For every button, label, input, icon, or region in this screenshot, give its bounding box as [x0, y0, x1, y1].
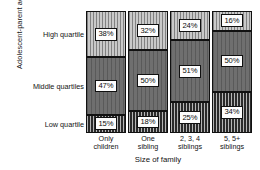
x-tick-label-line: sibling [128, 143, 168, 151]
segment-middle-quartiles: 50% [212, 31, 252, 92]
bar-only-children: 38% 47% 15% [86, 11, 126, 133]
segment-low-quartile: 25% [170, 102, 210, 133]
value-label: 16% [221, 14, 243, 27]
segment-high-quartile: 32% [128, 11, 168, 50]
bar-two-three-four-siblings: 24% 51% 25% [170, 11, 210, 133]
row-label-low-quartile: Low quartile [18, 120, 84, 129]
x-tick-label-line: children [86, 143, 126, 151]
x-tick-label-only-children: Only children [86, 135, 126, 151]
row-label-group: High quartile Middle quartiles Low quart… [18, 11, 84, 133]
segment-middle-quartiles: 51% [170, 40, 210, 102]
x-tick-label-five-plus-siblings: 5, 5+ siblings [212, 135, 252, 151]
bar-one-sibling: 32% 50% 18% [128, 11, 168, 133]
value-label: 47% [95, 80, 117, 93]
value-label: 51% [179, 65, 201, 78]
x-tick-label-group: Only children One sibling 2, 3, 4 siblin… [86, 135, 252, 157]
segment-low-quartile: 34% [212, 92, 252, 133]
value-label: 15% [95, 117, 117, 130]
value-label: 50% [137, 74, 159, 87]
value-label: 25% [179, 111, 201, 124]
value-label: 18% [137, 116, 159, 129]
segment-high-quartile: 24% [170, 11, 210, 40]
x-tick-label-one-sibling: One sibling [128, 135, 168, 151]
x-tick-label-two-three-four-siblings: 2, 3, 4 siblings [170, 135, 210, 151]
segment-high-quartile: 16% [212, 11, 252, 31]
segment-high-quartile: 38% [86, 11, 126, 57]
value-label: 34% [221, 106, 243, 119]
x-axis-title-wrap: Size of family [0, 155, 260, 164]
stacked-bar-chart: Adolescent-parent adjustment High quarti… [0, 0, 260, 170]
bar-five-plus-siblings: 16% 50% 34% [212, 11, 252, 133]
x-tick-label-line: siblings [212, 143, 252, 151]
row-label-high-quartile: High quartile [18, 30, 84, 39]
value-label: 38% [95, 28, 117, 41]
plot-area: 38% 47% 15% 32% 50% 18% 24% [86, 11, 252, 133]
segment-middle-quartiles: 47% [86, 57, 126, 114]
segment-low-quartile: 15% [86, 115, 126, 133]
value-label: 24% [179, 19, 201, 32]
value-label: 50% [221, 55, 243, 68]
segment-low-quartile: 18% [128, 111, 168, 133]
x-tick-label-line: siblings [170, 143, 210, 151]
segment-middle-quartiles: 50% [128, 50, 168, 111]
row-label-middle-quartiles: Middle quartiles [18, 82, 84, 91]
x-axis-title: Size of family [79, 155, 181, 164]
value-label: 32% [137, 24, 159, 37]
